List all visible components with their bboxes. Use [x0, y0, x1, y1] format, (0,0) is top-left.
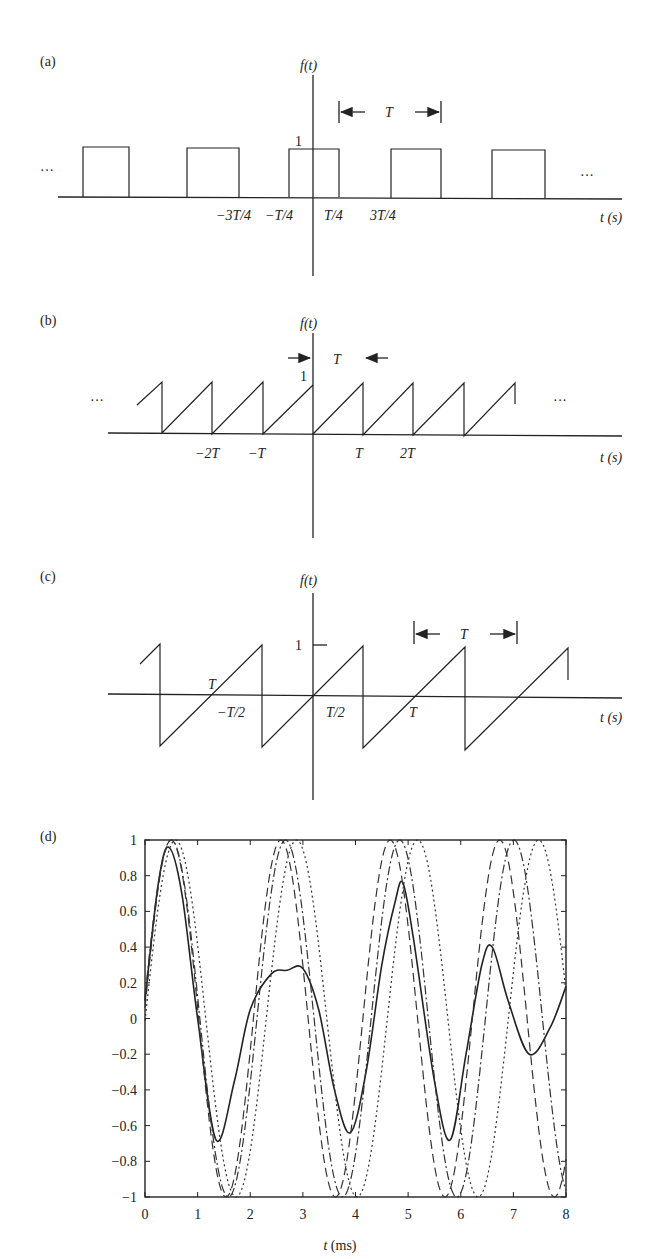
- plot-frame: [145, 840, 566, 1197]
- panel-c-tick-t-neg: T: [208, 677, 217, 692]
- x-axis-ticks: 012345678: [142, 840, 570, 1222]
- x-tick-label: 2: [247, 1207, 254, 1222]
- figure-canvas: (a) f(t) 1 ··· ··· −3T/4 −T/4 T/4 3T/4 t…: [0, 0, 659, 1259]
- y-tick-label: −1: [122, 1190, 137, 1205]
- panel-a-amplitude-label: 1: [295, 134, 302, 149]
- panel-b: (b) f(t) 1 ··· ··· −2T −T T 2T t (s) T: [40, 313, 623, 538]
- panel-b-tick-neg-2t: −2T: [195, 446, 220, 461]
- panel-a: (a) f(t) 1 ··· ··· −3T/4 −T/4 T/4 3T/4 t…: [40, 54, 623, 276]
- panel-c-tick-t2: T/2: [326, 705, 345, 720]
- panel-c-tick-t: T: [409, 705, 418, 720]
- y-tick-label: −0.2: [112, 1047, 137, 1062]
- panel-a-x-axis: [58, 197, 622, 199]
- y-tick-label: −0.6: [112, 1119, 137, 1134]
- panel-d: (d) 10.80.60.40.20−0.2−0.4−0.6−0.8−1 012…: [40, 829, 570, 1254]
- panel-b-period-label: T: [333, 352, 342, 367]
- y-tick-label: 0.4: [120, 940, 138, 955]
- y-tick-label: 0.8: [120, 869, 138, 884]
- panel-c-period-label: T: [460, 627, 469, 642]
- panel-a-x-axis-label: t (s): [600, 210, 623, 226]
- panel-c-amplitude-label: 1: [295, 638, 302, 653]
- x-tick-label: 3: [299, 1207, 306, 1222]
- x-tick-label: 6: [457, 1207, 464, 1222]
- panel-a-tick-neg-t4: −T/4: [265, 208, 293, 223]
- panel-a-period-label: T: [385, 105, 394, 120]
- panel-b-y-axis-label: f(t): [300, 316, 317, 332]
- panel-b-period-marker: T: [288, 352, 388, 367]
- panel-b-sawtooth: [137, 382, 515, 436]
- panel-b-ellipsis-left: ···: [90, 393, 104, 408]
- series-dashed: [145, 840, 566, 1197]
- panel-c-label: (c): [40, 569, 56, 585]
- x-tick-label: 7: [510, 1207, 517, 1222]
- panel-b-tick-neg-t: −T: [248, 446, 266, 461]
- plot-curves: [145, 840, 566, 1197]
- series-dashdot: [145, 840, 566, 1197]
- y-tick-label: −0.4: [112, 1083, 137, 1098]
- panel-c-period-marker: T: [414, 621, 517, 644]
- panel-c-x-axis: [108, 694, 622, 698]
- y-tick-label: 0.6: [120, 904, 138, 919]
- y-tick-label: 1: [130, 833, 137, 848]
- panel-a-tick-3t4: 3T/4: [369, 208, 396, 223]
- y-tick-label: −0.8: [112, 1154, 137, 1169]
- panel-b-label: (b): [40, 313, 57, 329]
- panel-b-x-axis-label: t (s): [600, 450, 623, 466]
- x-axis-label: t (ms): [323, 1238, 356, 1254]
- panel-c: (c) f(t) 1 T −T/2 T/2 T t (s) T: [40, 569, 623, 800]
- panel-a-y-axis-label: f(t): [300, 58, 317, 74]
- panel-b-tick-2t: 2T: [400, 446, 416, 461]
- y-tick-label: 0.2: [120, 976, 138, 991]
- panel-a-period-marker: T: [339, 101, 441, 123]
- panel-a-ellipsis-right: ···: [580, 168, 594, 183]
- panel-c-y-axis-label: f(t): [300, 573, 317, 589]
- panel-b-ellipsis-right: ···: [553, 393, 567, 408]
- panel-a-label: (a): [40, 54, 56, 70]
- x-tick-label: 8: [563, 1207, 570, 1222]
- x-tick-label: 5: [405, 1207, 412, 1222]
- panel-a-tick-neg-3t4: −3T/4: [216, 208, 251, 223]
- panel-b-amplitude-label: 1: [300, 369, 307, 384]
- panel-c-tick-neg-t2: −T/2: [217, 705, 245, 720]
- panel-d-label: (d): [40, 829, 57, 845]
- panel-a-ellipsis-left: ···: [40, 163, 54, 178]
- panel-a-pulse-train: [83, 147, 545, 198]
- series-dotted: [145, 840, 566, 1197]
- panel-b-tick-t: T: [355, 446, 364, 461]
- x-tick-label: 4: [352, 1207, 359, 1222]
- x-tick-label: 1: [194, 1207, 201, 1222]
- y-tick-label: 0: [130, 1012, 137, 1027]
- panel-a-tick-t4: T/4: [324, 208, 343, 223]
- panel-c-x-axis-label: t (s): [600, 710, 623, 726]
- y-axis-ticks: 10.80.60.40.20−0.2−0.4−0.6−0.8−1: [112, 833, 566, 1205]
- x-tick-label: 0: [142, 1207, 149, 1222]
